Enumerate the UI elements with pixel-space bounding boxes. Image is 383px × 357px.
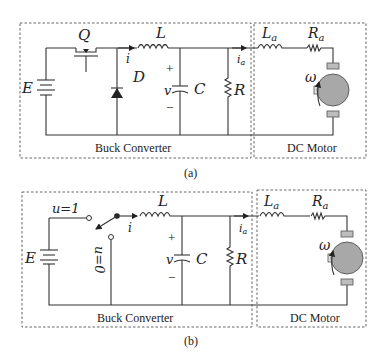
armature-current-label: ia xyxy=(237,53,246,67)
panel-b: E u=1 u=0 i L v + − C R ia xyxy=(22,190,366,348)
caption-b: (b) xyxy=(184,334,198,348)
armature-resistor-icon xyxy=(307,45,333,64)
switch-label: Q xyxy=(78,26,90,44)
caption-a: (a) xyxy=(184,166,197,180)
current-label: i xyxy=(128,221,132,235)
speed-label: ω xyxy=(305,69,317,85)
voltage-label: v xyxy=(164,83,172,98)
buck-converter-label: Buck Converter xyxy=(97,311,173,325)
buck-converter-dc-motor-diagram: E Q D i L v + − xyxy=(0,0,383,357)
inductor-label: L xyxy=(155,24,166,42)
source-label: E xyxy=(21,79,33,97)
capacitor-label: C xyxy=(196,250,208,268)
plus-sign: + xyxy=(168,230,175,245)
plus-sign: + xyxy=(166,61,173,76)
armature-inductor-label: La xyxy=(263,193,279,211)
dc-motor-label: DC Motor xyxy=(287,141,337,155)
armature-resistor-icon xyxy=(311,213,347,232)
minus-sign: − xyxy=(166,100,173,115)
battery-icon xyxy=(37,80,55,95)
resistor-icon xyxy=(227,216,233,305)
switch-contact-off xyxy=(109,235,114,240)
current-label: i xyxy=(126,52,130,66)
inductor-label: L xyxy=(157,192,168,210)
armature-inductor-icon xyxy=(258,45,307,49)
switch-contact-on xyxy=(87,216,92,221)
mosfet-switch-icon xyxy=(74,48,98,72)
diode-icon xyxy=(111,48,123,135)
resistor-label: R xyxy=(233,81,245,99)
wire xyxy=(46,48,333,135)
minus-sign: − xyxy=(168,270,175,285)
switch-on-label: u=1 xyxy=(52,201,80,216)
dc-motor-icon xyxy=(314,63,349,117)
capacitor-icon xyxy=(174,216,190,305)
speed-label: ω xyxy=(319,237,331,253)
voltage-label: v xyxy=(166,252,174,267)
armature-inductor-label: La xyxy=(261,25,277,43)
switch-arm-icon[interactable] xyxy=(96,216,117,229)
armature-resistor-label: Ra xyxy=(311,193,329,211)
switch-off-label: u=0 xyxy=(92,246,107,274)
resistor-icon xyxy=(225,48,231,135)
dc-motor-label: DC Motor xyxy=(290,311,340,325)
resistor-label: R xyxy=(235,250,247,268)
source-label: E xyxy=(24,249,36,267)
armature-resistor-label: Ra xyxy=(307,25,325,43)
buck-converter-label: Buck Converter xyxy=(95,141,171,155)
diode-label: D xyxy=(132,68,145,86)
battery-icon xyxy=(40,250,58,264)
panel-a: E Q D i L v + − xyxy=(20,23,366,180)
dc-motor-icon xyxy=(328,231,363,285)
armature-current-label: ia xyxy=(239,222,248,236)
capacitor-icon xyxy=(172,48,188,135)
capacitor-label: C xyxy=(194,80,206,98)
